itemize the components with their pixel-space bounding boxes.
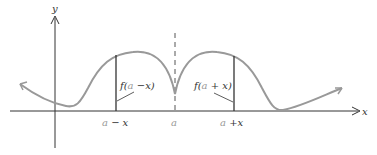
tick-a-plus-x: a +x — [220, 117, 244, 128]
tick-a: a — [171, 117, 177, 128]
label-f-a-minus-x: f(a −x) — [119, 80, 155, 91]
leader-line-right — [214, 93, 233, 102]
symmetry-diagram: x y f(a −x) f(a + x) a −x a a +x — [0, 0, 377, 155]
y-axis — [51, 16, 59, 148]
y-axis-label: y — [51, 3, 58, 14]
function-curve — [20, 52, 342, 110]
tick-a-minus-x: a −x — [102, 117, 129, 128]
x-axis — [10, 107, 360, 115]
label-f-a-plus-x: f(a + x) — [193, 80, 232, 91]
leader-line-left — [117, 92, 134, 101]
x-axis-label: x — [362, 106, 368, 117]
